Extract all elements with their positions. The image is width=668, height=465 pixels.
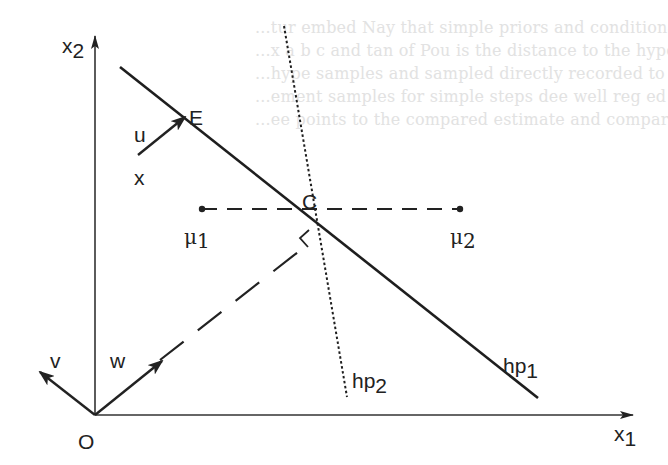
hyperplane-diagram: x2 x1 O hp1 hp2 μ1 μ2 C v w u x E [0, 0, 668, 465]
x1-axis-label: x1 [614, 422, 636, 450]
mu2-label: μ2 [450, 225, 476, 253]
mu1-label: μ1 [184, 225, 210, 253]
vector-v-label: v [50, 349, 61, 372]
vector-w [95, 361, 162, 415]
point-e-label: E [189, 106, 203, 129]
x2-axis-label: x2 [62, 34, 84, 62]
vector-v [40, 372, 95, 415]
mu2-point [457, 206, 463, 212]
point-c-label: C [302, 190, 317, 213]
point-x-label: x [134, 166, 145, 189]
right-angle-marker [300, 230, 309, 247]
vector-w-label: w [109, 349, 126, 372]
w-projection-line [160, 252, 298, 360]
hp1-label: hp1 [503, 354, 538, 382]
origin-label: O [78, 430, 94, 453]
hp2-label: hp2 [352, 369, 387, 397]
mu1-point [199, 206, 205, 212]
vector-u-label: u [134, 123, 146, 146]
